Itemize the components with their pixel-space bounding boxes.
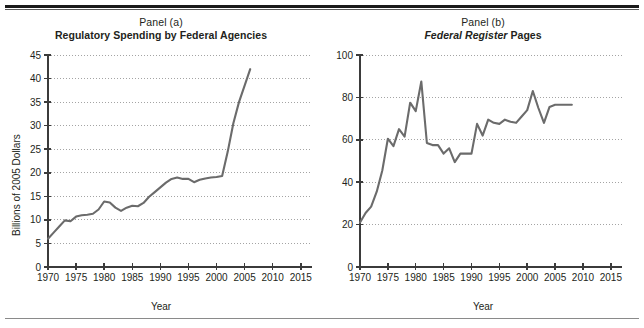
x-tick-label: 1990: [460, 272, 483, 283]
y-tick-label: 100: [336, 50, 353, 61]
bottom-rule: [5, 318, 639, 319]
data-line: [48, 69, 250, 239]
y-tick-label: 80: [342, 92, 354, 103]
x-tick-label: 1970: [37, 272, 60, 283]
x-tick-label: 1980: [405, 272, 428, 283]
figure-container: Panel (a) Regulatory Spending by Federal…: [0, 0, 644, 328]
data-line: [360, 82, 572, 223]
y-tick-label: 20: [30, 167, 42, 178]
y-tick-label: 30: [30, 120, 42, 131]
x-tick-label: 2005: [544, 272, 567, 283]
y-tick-label: 35: [30, 97, 42, 108]
y-tick-label: 45: [30, 50, 42, 61]
x-tick-label: 2000: [205, 272, 228, 283]
x-tick-label: 2010: [572, 272, 595, 283]
x-tick-label: 2005: [233, 272, 256, 283]
panel-b: Panel (b) Federal Register Pages Thousan…: [322, 0, 644, 318]
x-tick-label: 2000: [516, 272, 539, 283]
y-tick-label: 40: [30, 73, 42, 84]
y-tick-label: 10: [30, 214, 42, 225]
x-tick-label: 1985: [121, 272, 144, 283]
y-tick-label: 5: [35, 238, 41, 249]
x-tick-label: 2010: [262, 272, 285, 283]
x-tick-label: 1980: [93, 272, 116, 283]
x-tick-label: 1995: [177, 272, 200, 283]
y-tick-label: 40: [342, 177, 354, 188]
panel-a: Panel (a) Regulatory Spending by Federal…: [0, 0, 322, 318]
y-tick-label: 15: [30, 191, 42, 202]
y-tick-label: 0: [347, 262, 353, 273]
x-tick-label: 1975: [65, 272, 88, 283]
x-tick-label: 1985: [432, 272, 455, 283]
x-tick-label: 2015: [600, 272, 623, 283]
panel-a-plot: 0510152025303540451970197519801985199019…: [0, 0, 322, 318]
y-tick-label: 25: [30, 144, 42, 155]
y-tick-label: 0: [35, 262, 41, 273]
x-tick-label: 1990: [149, 272, 172, 283]
x-tick-label: 1975: [377, 272, 400, 283]
y-tick-label: 20: [342, 219, 354, 230]
x-tick-label: 1970: [349, 272, 372, 283]
y-tick-label: 60: [342, 134, 354, 145]
x-tick-label: 2015: [290, 272, 313, 283]
panel-b-plot: 0204060801001970197519801985199019952000…: [322, 0, 644, 318]
x-tick-label: 1995: [488, 272, 511, 283]
